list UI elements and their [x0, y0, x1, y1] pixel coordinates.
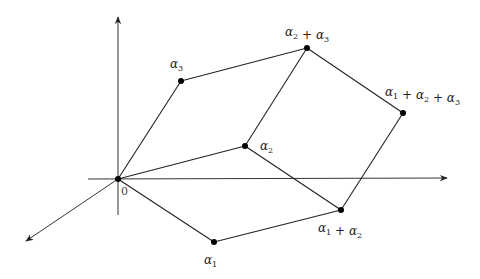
point-a2: [242, 143, 248, 149]
origin-label: 0: [121, 185, 128, 198]
edge-origin-a3: [118, 81, 181, 179]
edge-origin-a1: [118, 179, 214, 242]
point-a1a2: [338, 207, 344, 213]
diagram-canvas: 0α1α2α3α1 + α2α2 + α3α1 + α2 + α3: [0, 0, 480, 279]
point-a3: [178, 78, 184, 84]
edge-a3-a2a3: [181, 48, 307, 81]
label-a2: α2: [260, 139, 273, 155]
edge-a2a3-a1a2a3: [307, 48, 403, 113]
label-a3: α3: [170, 57, 183, 73]
label-a1a2: α1 + α2: [318, 221, 362, 240]
point-a1: [211, 239, 217, 245]
horizontal-axis: [88, 178, 447, 179]
point-a2a3: [304, 45, 310, 51]
label-a1: α1: [204, 253, 217, 269]
label-a1a2a3: α1 + α2 + α3: [385, 85, 460, 107]
origin-point: [115, 176, 121, 182]
label-a2a3: α2 + α3: [285, 25, 329, 44]
diagonal-axis: [26, 179, 118, 241]
edge-origin-a2: [118, 146, 245, 179]
point-a1a2a3: [400, 110, 406, 116]
axes: [26, 17, 447, 241]
edge-a1a2-a1a2a3: [341, 113, 403, 210]
labels: 0α1α2α3α1 + α2α2 + α3α1 + α2 + α3: [121, 25, 460, 269]
edge-a2-a2a3: [245, 48, 307, 146]
